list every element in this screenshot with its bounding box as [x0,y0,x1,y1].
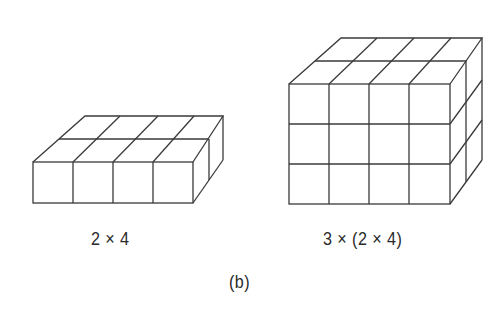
right-block-label: 3 × (2 × 4) [323,228,402,250]
left-block-label: 2 × 4 [91,228,130,250]
panel-label: (b) [229,271,250,293]
right-block-3x2x4 [289,38,482,204]
left-block-2x4 [33,116,223,203]
cube-diagram [0,0,501,314]
